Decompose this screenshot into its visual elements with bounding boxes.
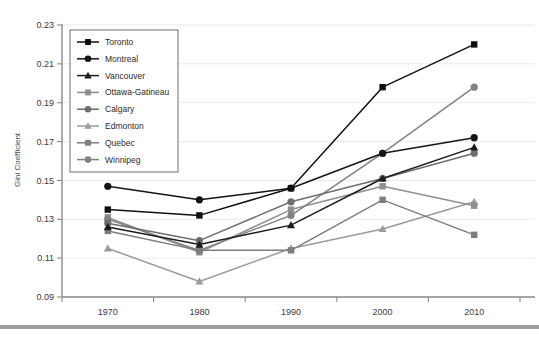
x-tick-label: 2000 [373, 307, 393, 317]
x-tick-label: 1980 [189, 307, 209, 317]
data-point [287, 198, 294, 205]
data-point [471, 84, 478, 91]
legend-label: Edmonton [105, 121, 144, 131]
y-tick-label: 0.21 [36, 59, 54, 69]
legend: TorontoMontrealVancouverOttawa-GatineauC… [70, 30, 178, 172]
data-point [470, 143, 478, 150]
x-tick-label: 1990 [281, 307, 301, 317]
data-point [471, 134, 478, 141]
y-tick-label: 0.15 [36, 176, 54, 186]
data-point [288, 247, 294, 253]
y-tick-label: 0.11 [37, 253, 54, 263]
y-tick-label: 0.09 [36, 292, 54, 302]
y-tick-label: 0.17 [36, 137, 54, 147]
data-point [105, 206, 111, 212]
y-tick-label: 0.19 [36, 98, 54, 108]
legend-marker [85, 39, 91, 45]
legend-label: Quebec [105, 138, 136, 148]
data-point [379, 183, 385, 189]
y-axis-title: Gini Coefficient [13, 132, 22, 187]
legend-marker [85, 55, 92, 62]
x-tick-label: 2010 [464, 307, 484, 317]
legend-marker [85, 89, 91, 95]
legend-label: Winnipeg [105, 155, 141, 165]
chart-canvas: 0.090.110.130.150.170.190.210.2319701980… [0, 0, 539, 347]
data-point [471, 41, 477, 47]
data-point [288, 185, 294, 191]
data-point [196, 247, 202, 253]
legend-label: Calgary [105, 104, 135, 114]
x-tick-label: 1970 [98, 307, 118, 317]
data-point [471, 150, 478, 157]
legend-label: Toronto [105, 37, 134, 47]
legend-marker [85, 106, 92, 113]
data-point [196, 212, 202, 218]
legend-marker [85, 140, 91, 146]
y-tick-label: 0.23 [36, 20, 54, 30]
gini-coefficient-line-chart: 0.090.110.130.150.170.190.210.2319701980… [0, 0, 539, 347]
legend-box [70, 30, 178, 172]
data-point [196, 196, 203, 203]
legend-marker [85, 156, 92, 163]
legend-label: Montreal [105, 54, 138, 64]
y-tick-label: 0.13 [36, 214, 54, 224]
data-point [379, 197, 385, 203]
data-point [287, 212, 294, 219]
x-axis-ticks: 19701980199020002010 [62, 297, 520, 317]
data-point [471, 232, 477, 238]
data-point [287, 221, 295, 228]
caption-divider [0, 325, 539, 329]
data-point [471, 202, 477, 208]
data-point [104, 183, 111, 190]
legend-label: Vancouver [105, 71, 145, 81]
data-point [379, 84, 385, 90]
data-point [379, 150, 386, 157]
data-point [104, 244, 112, 251]
legend-label: Ottawa-Gatineau [105, 87, 170, 97]
